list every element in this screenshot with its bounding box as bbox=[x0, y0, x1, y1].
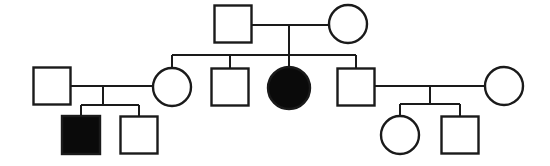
person-symbol-male-unaffected[interactable] bbox=[338, 69, 375, 106]
person-symbol-female-affected[interactable] bbox=[268, 67, 310, 109]
person-symbol-male-unaffected[interactable] bbox=[215, 6, 252, 43]
person-symbol-male-affected[interactable] bbox=[62, 116, 100, 154]
person-symbol-male-unaffected[interactable] bbox=[34, 68, 71, 105]
person-symbol-male-unaffected[interactable] bbox=[442, 117, 479, 154]
person-symbol-female-unaffected[interactable] bbox=[485, 67, 523, 105]
person-symbol-female-unaffected[interactable] bbox=[153, 68, 191, 106]
person-symbol-male-unaffected[interactable] bbox=[121, 117, 158, 154]
symbol-layer bbox=[34, 5, 524, 154]
pedigree-diagram bbox=[0, 0, 550, 166]
person-symbol-male-unaffected[interactable] bbox=[212, 69, 249, 106]
person-symbol-female-unaffected[interactable] bbox=[329, 5, 367, 43]
person-symbol-female-unaffected[interactable] bbox=[381, 116, 419, 154]
pedigree-canvas bbox=[0, 0, 550, 166]
